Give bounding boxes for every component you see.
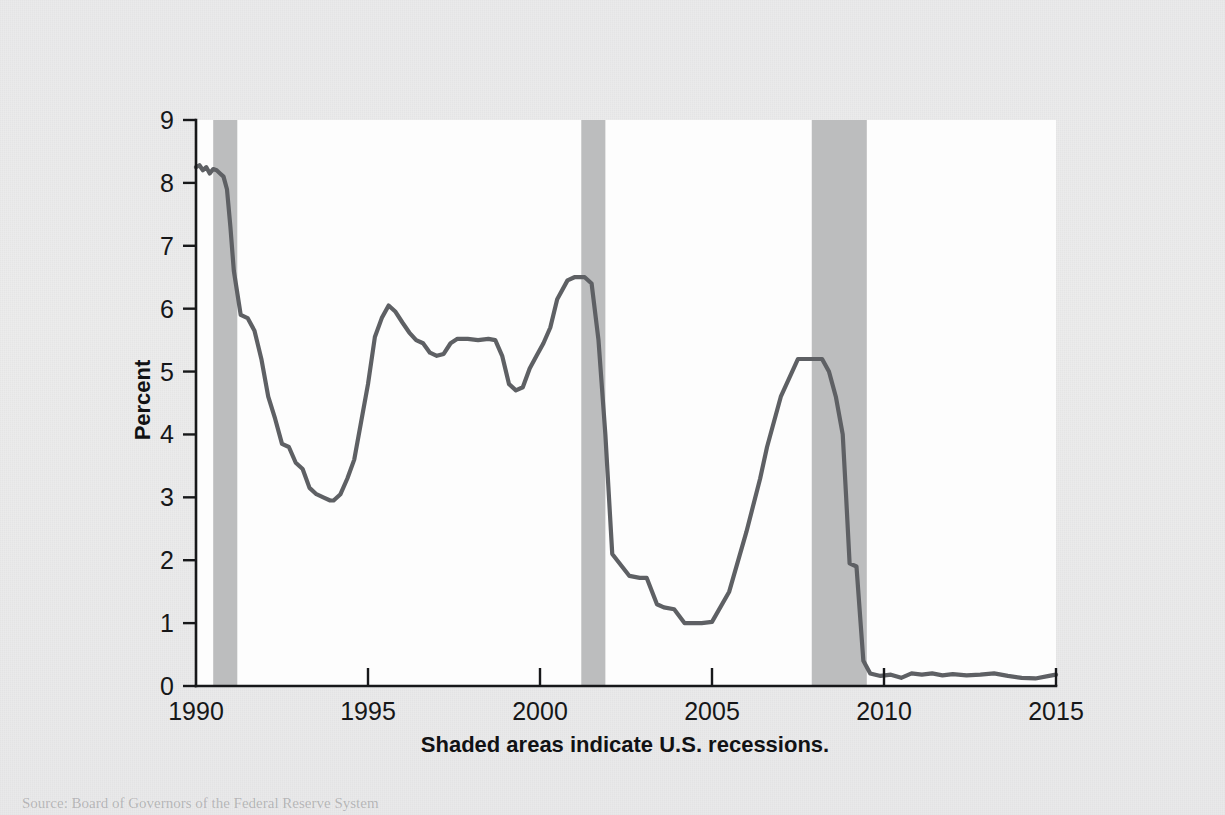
x-axis-tick-label: 1990 <box>168 697 224 725</box>
y-axis-tick-label: 7 <box>160 232 174 260</box>
federal-funds-rate-chart: 0123456789 199019952000200520102015 Perc… <box>0 0 1225 815</box>
plot-background <box>196 120 1056 686</box>
y-axis-tick-label: 3 <box>160 483 174 511</box>
plot-area: 0123456789 199019952000200520102015 <box>160 106 1084 725</box>
x-axis-tick-label: 2010 <box>856 697 912 725</box>
x-axis-tick-label: 1995 <box>340 697 396 725</box>
y-axis-tick-label: 6 <box>160 295 174 323</box>
y-axis-tick-label: 1 <box>160 609 174 637</box>
y-axis-tick-label: 5 <box>160 358 174 386</box>
y-axis: 0123456789 <box>160 106 196 700</box>
y-axis-tick-label: 8 <box>160 169 174 197</box>
source-caption: Source: Board of Governors of the Federa… <box>22 795 379 813</box>
x-axis-tick-label: 2005 <box>684 697 740 725</box>
chart-svg: 0123456789 199019952000200520102015 Perc… <box>0 0 1225 815</box>
y-axis-tick-label: 0 <box>160 672 174 700</box>
x-axis-tick-label: 2015 <box>1028 697 1084 725</box>
recession-band <box>213 120 237 686</box>
recession-footnote: Shaded areas indicate U.S. recessions. <box>421 732 829 757</box>
y-axis-tick-label: 4 <box>160 420 174 448</box>
y-axis-tick-label: 2 <box>160 546 174 574</box>
y-axis-tick-label: 9 <box>160 106 174 134</box>
y-axis-title: Percent <box>130 359 155 440</box>
x-axis-tick-label: 2000 <box>512 697 568 725</box>
